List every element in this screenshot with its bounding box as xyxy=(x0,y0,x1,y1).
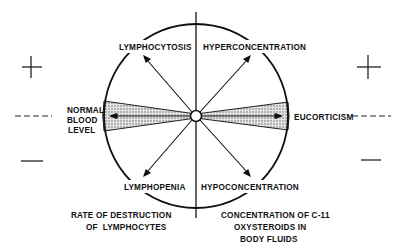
caption-right-line2: OXYSTEROIDS IN xyxy=(234,223,306,232)
label-lymphopenia: LYMPHOPENIA xyxy=(124,183,186,192)
caption-left-line2: OF LYMPHOCYTES xyxy=(86,223,167,232)
caption-right-line1: CONCENTRATION OF C-11 xyxy=(221,211,330,220)
left-plus-icon xyxy=(22,56,42,78)
balance-diagram: LYMPHOCYTOSIS HYPERCONCENTRATION LYMPHOP… xyxy=(0,0,405,252)
label-lymphocytosis: LYMPHOCYTOSIS xyxy=(119,43,192,52)
center-pivot xyxy=(191,111,202,122)
caption-right-line3: BODY FLUIDS xyxy=(240,235,298,244)
label-blood: BLOOD xyxy=(67,116,98,125)
label-hypoconcentration: HYPOCONCENTRATION xyxy=(201,183,299,192)
caption-left-line1: RATE OF DESTRUCTION xyxy=(71,211,172,220)
label-normal: NORMAL xyxy=(67,106,104,115)
label-eucorticism: EUCORTICISM xyxy=(294,113,354,122)
label-hyperconcentration: HYPERCONCENTRATION xyxy=(203,43,306,52)
label-level: LEVEL xyxy=(68,126,95,135)
right-plus-icon xyxy=(357,55,381,79)
